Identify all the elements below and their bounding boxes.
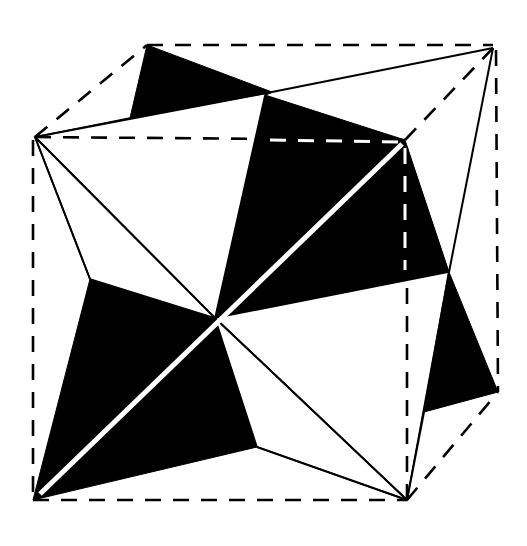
cube-edge: [496, 50, 498, 392]
cube-edge: [405, 48, 493, 140]
edge: [272, 48, 493, 92]
polyhedron-diagram: [0, 0, 527, 546]
edge: [449, 48, 493, 272]
